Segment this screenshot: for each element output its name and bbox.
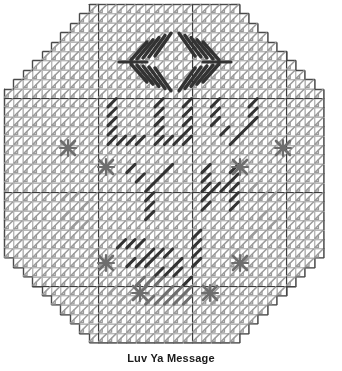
chart-caption: Luv Ya Message xyxy=(0,352,342,364)
pattern-canvas xyxy=(0,0,342,371)
stitch-chart: Luv Ya Message xyxy=(0,0,342,371)
